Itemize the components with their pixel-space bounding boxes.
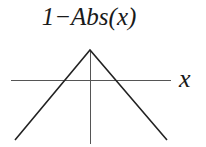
function-plot (0, 0, 206, 147)
x-axis-label: x (179, 64, 191, 94)
